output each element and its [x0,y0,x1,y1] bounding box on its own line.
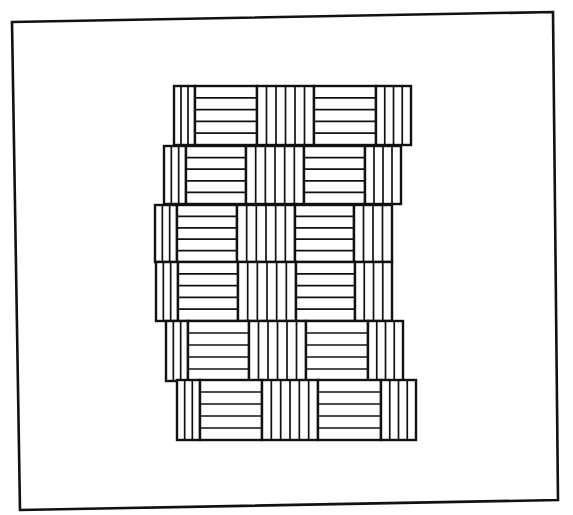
weave-row [155,205,392,262]
block-outline [186,146,246,204]
vertical-striped-block [368,321,403,381]
vertical-striped-block [166,321,188,381]
horizontal-striped-block [306,321,368,381]
weave-row [166,321,403,381]
block-outline [174,86,195,145]
vertical-striped-block [365,146,401,204]
vertical-striped-block [156,262,178,321]
basketweave-diagram [0,0,573,515]
horizontal-striped-block [195,86,257,145]
vertical-striped-block [155,205,177,262]
horizontal-striped-block [178,262,238,321]
vertical-striped-block [164,146,186,204]
horizontal-striped-block [188,321,249,381]
block-outline [295,205,354,262]
block-outline [195,86,257,145]
block-outline [200,380,262,440]
horizontal-striped-block [304,146,365,204]
block-outline [156,262,178,321]
horizontal-striped-block [177,205,237,262]
vertical-striped-block [381,380,416,440]
block-outline [306,321,368,381]
block-outline [188,321,249,381]
horizontal-striped-block [186,146,246,204]
vertical-striped-block [355,262,392,321]
block-outline [304,146,365,204]
block-outline [177,205,237,262]
block-outline [318,380,381,440]
vertical-striped-block [237,205,295,262]
block-outline [296,262,355,321]
horizontal-striped-block [296,262,355,321]
horizontal-striped-block [200,380,262,440]
vertical-striped-block [354,205,392,262]
weave-row [164,146,401,204]
horizontal-striped-block [318,380,381,440]
vertical-striped-block [177,380,200,440]
vertical-striped-block [246,146,304,204]
horizontal-striped-block [295,205,354,262]
block-outline [164,146,186,204]
vertical-striped-block [262,380,318,440]
vertical-striped-block [376,86,411,145]
vertical-striped-block [257,86,314,145]
block-outline [177,380,200,440]
weave-row [156,262,392,321]
weave-pattern [155,86,416,440]
weave-row [174,86,411,145]
block-outline [155,205,177,262]
weave-row [177,380,416,440]
block-outline [178,262,238,321]
block-outline [314,86,376,145]
horizontal-striped-block [314,86,376,145]
vertical-striped-block [174,86,195,145]
block-outline [166,321,188,381]
diagram-canvas [0,0,573,515]
vertical-striped-block [238,262,296,321]
vertical-striped-block [249,321,306,381]
